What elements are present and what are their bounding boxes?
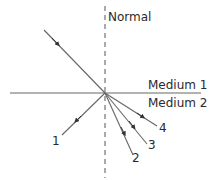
ray-4-label: 4 [159,121,167,135]
ray-3 [105,93,147,144]
ray-1-label: 1 [52,134,60,148]
ray-1 [62,93,105,135]
ray-2-label: 2 [132,151,140,165]
medium-1-label: Medium 1 [148,78,207,92]
refraction-diagram: Normal Medium 1 Medium 2 1 2 3 4 [0,0,211,180]
incident-ray [44,30,105,93]
ray-3-label: 3 [148,138,156,152]
normal-label: Normal [108,10,151,24]
medium-2-label: Medium 2 [148,96,207,110]
